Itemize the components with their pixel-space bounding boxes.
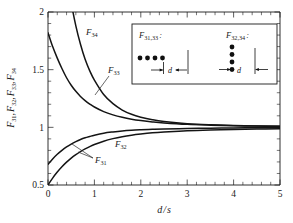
inset-left-label-sub: 31,33 bbox=[144, 34, 158, 41]
inset-right-label-sub: 32,34 bbox=[231, 34, 245, 41]
x-tick-label-3: 3 bbox=[185, 189, 190, 199]
curve-label-f33-sub: 33 bbox=[114, 69, 120, 76]
chart-svg: 0.5 1 1.5 2 0 1 2 3 4 5 d/s F31,F32,F33,… bbox=[0, 0, 293, 223]
y-tick-label-3: 2 bbox=[39, 7, 44, 17]
x-tick-label-1: 1 bbox=[92, 189, 97, 199]
inset-left-dot-4 bbox=[160, 56, 165, 61]
inset-right-label-colon: : bbox=[246, 30, 249, 40]
inset-left-label-colon: : bbox=[159, 30, 162, 40]
inset-left-dot-3 bbox=[153, 56, 158, 61]
curve-label-f34-sub: 34 bbox=[92, 31, 98, 38]
figure-container: 0.5 1 1.5 2 0 1 2 3 4 5 d/s F31,F32,F33,… bbox=[0, 0, 293, 223]
curve-label-f31-sub: 31 bbox=[101, 159, 107, 166]
y-axis-title-p3-sub: 34 bbox=[10, 68, 17, 74]
y-tick-label-2: 1.5 bbox=[32, 65, 44, 75]
inset-right-dot-1 bbox=[230, 45, 235, 50]
y-tick-label-1: 1 bbox=[39, 123, 44, 133]
x-tick-label-2: 2 bbox=[138, 189, 143, 199]
svg-text:d/s: d/s bbox=[157, 204, 171, 215]
inset-right-dot-2 bbox=[230, 52, 235, 57]
inset-left-dot-1 bbox=[138, 56, 143, 61]
inset-left-dot-2 bbox=[145, 56, 150, 61]
inset-right-dot-3 bbox=[230, 60, 235, 65]
x-tick-label-4: 4 bbox=[231, 189, 236, 199]
x-axis-title: d/s bbox=[157, 204, 171, 215]
x-tick-label-0: 0 bbox=[46, 189, 51, 199]
x-tick-label-5: 5 bbox=[278, 189, 283, 199]
inset-diagram: F31,33: d F32,34: bbox=[132, 24, 277, 84]
y-tick-label-0: 0.5 bbox=[32, 180, 44, 190]
x-axis-title-den: s bbox=[167, 204, 171, 215]
curve-label-f32-sub: 32 bbox=[121, 143, 127, 150]
